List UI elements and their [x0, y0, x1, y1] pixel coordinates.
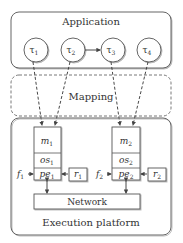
application-title: Application [61, 16, 120, 27]
task-tau2: τ2 [61, 38, 85, 62]
application-layer: Application τ1 τ2 τ3 τ4 [11, 12, 171, 68]
task-tau1: τ1 [24, 38, 48, 62]
execution-platform-title: Execution platform [42, 217, 140, 228]
mapping-arrow [33, 62, 42, 125]
execution-platform-layer: m1 os1 pe1 f1 r1 m2 os2 pe2 f2 r2 [11, 118, 171, 235]
task-tau3: τ3 [101, 38, 125, 62]
node-2: m2 os2 pe2 f2 r2 [95, 127, 166, 193]
mapping-title: Mapping [68, 91, 114, 102]
system-diagram: Application τ1 τ2 τ3 τ4 Mapping [0, 0, 183, 243]
frequency-label: f2 [95, 169, 103, 180]
mapping-layer: Mapping [11, 75, 171, 116]
node-1: m1 os1 pe1 f1 r1 [16, 127, 87, 193]
mapping-arrow [133, 62, 148, 125]
network-label: Network [67, 197, 107, 207]
task-tau4: τ4 [137, 38, 161, 62]
frequency-label: f1 [16, 169, 24, 180]
